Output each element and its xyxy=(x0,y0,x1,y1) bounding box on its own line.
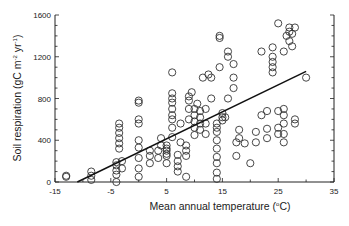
x-axis-title: Mean annual temperature (oC) xyxy=(149,200,290,212)
x-axis-tick-labels: -15-55152535 xyxy=(49,187,339,196)
data-point xyxy=(233,152,240,159)
data-point xyxy=(135,154,142,161)
data-point xyxy=(280,130,287,137)
data-point xyxy=(241,140,248,147)
x-tick-label: -5 xyxy=(107,187,115,196)
y-tick-label: 1600 xyxy=(33,11,51,20)
data-point xyxy=(280,120,287,127)
data-point xyxy=(113,171,120,178)
data-point xyxy=(224,95,231,102)
trend-line xyxy=(77,71,306,182)
data-point xyxy=(169,116,176,123)
data-point xyxy=(263,107,270,114)
data-point xyxy=(155,154,162,161)
data-point xyxy=(199,74,206,81)
data-point xyxy=(169,69,176,76)
data-point xyxy=(291,24,298,31)
data-point xyxy=(135,137,142,144)
x-tick-label: 5 xyxy=(164,187,169,196)
data-point xyxy=(216,64,223,71)
data-point xyxy=(263,125,270,132)
y-tick-label: 0 xyxy=(47,178,52,187)
data-point xyxy=(169,124,176,131)
data-point xyxy=(280,139,287,146)
data-point xyxy=(146,160,153,167)
data-point xyxy=(230,74,237,81)
y-axis-title: Soil respiration (gC m-2 yr-1) xyxy=(11,35,23,162)
data-point xyxy=(247,160,254,167)
data-point xyxy=(135,165,142,172)
data-point xyxy=(191,131,198,138)
x-tick-label: 15 xyxy=(218,187,227,196)
y-axis-tick-labels: 040080012001600 xyxy=(33,11,51,187)
data-point xyxy=(183,173,190,180)
data-point xyxy=(252,139,259,146)
data-point xyxy=(258,48,265,55)
data-point xyxy=(135,173,142,180)
scatter-chart: -15-55152535 040080012001600 Mean annual… xyxy=(0,0,349,226)
data-point xyxy=(213,128,220,135)
data-point xyxy=(280,48,287,55)
data-point xyxy=(116,124,123,131)
data-point xyxy=(213,124,220,131)
data-point xyxy=(224,48,231,55)
regression-line xyxy=(77,71,306,182)
data-point xyxy=(275,20,282,27)
data-point xyxy=(135,144,142,151)
y-tick-label: 400 xyxy=(38,136,52,145)
data-point xyxy=(213,120,220,127)
y-tick-label: 800 xyxy=(38,95,52,104)
data-point xyxy=(230,84,237,91)
data-point xyxy=(177,120,184,127)
data-point xyxy=(163,160,170,167)
y-tick-label: 1200 xyxy=(33,53,51,62)
data-point xyxy=(185,97,192,104)
data-point xyxy=(213,137,220,144)
data-point xyxy=(269,44,276,51)
x-tick-label: 25 xyxy=(274,187,283,196)
x-tick-label: 35 xyxy=(330,187,339,196)
data-point xyxy=(291,116,298,123)
data-point xyxy=(230,60,237,67)
data-point xyxy=(208,74,215,81)
data-point xyxy=(116,120,123,127)
data-point xyxy=(263,135,270,142)
data-point xyxy=(303,74,310,81)
data-point xyxy=(236,126,243,133)
data-point xyxy=(202,130,209,137)
data-points xyxy=(63,20,310,186)
data-point xyxy=(135,116,142,123)
plot-frame xyxy=(55,15,334,182)
data-point xyxy=(213,145,220,152)
data-point xyxy=(291,120,298,127)
data-point xyxy=(269,53,276,60)
data-point xyxy=(169,90,176,97)
data-point xyxy=(208,95,215,102)
data-point xyxy=(183,142,190,149)
data-point xyxy=(205,71,212,78)
axis-ticks xyxy=(55,15,334,182)
data-point xyxy=(177,139,184,146)
x-tick-label: -15 xyxy=(49,187,61,196)
data-point xyxy=(135,120,142,127)
data-point xyxy=(252,128,259,135)
